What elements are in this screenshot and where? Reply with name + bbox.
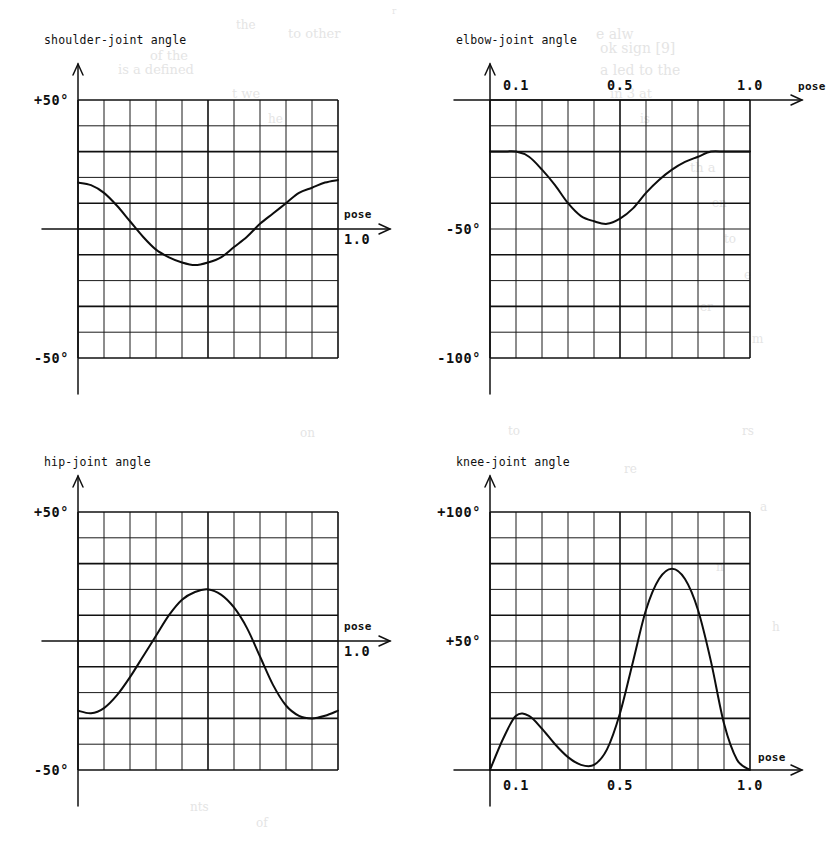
figure-page: rto othere alwof theok sign [9]theis a d…	[0, 0, 828, 859]
chart-curve-knee	[490, 569, 750, 770]
chart-axes-knee	[454, 476, 802, 806]
chart-panel-knee: knee-joint angle+100°+50°0.10.51.0pose	[0, 0, 828, 859]
chart-svg-knee: knee-joint angle+100°+50°0.10.51.0pose	[0, 0, 828, 859]
chart-title-knee: knee-joint angle	[456, 455, 570, 469]
x-tick-label-knee-2: 1.0	[737, 777, 763, 793]
x-tick-label-knee-1: 0.5	[607, 777, 633, 793]
chart-grid-knee	[490, 512, 750, 770]
y-tick-label-knee-0: +100°	[437, 504, 481, 520]
x-tick-label-knee-0: 0.1	[503, 777, 529, 793]
x-axis-name-knee: pose	[758, 751, 786, 764]
y-tick-label-knee-1: +50°	[446, 633, 481, 649]
